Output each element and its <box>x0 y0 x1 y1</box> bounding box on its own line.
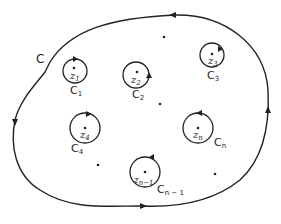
contour-label: C1 <box>70 84 82 98</box>
point-label: z2 <box>130 74 141 87</box>
contour-label: Cn <box>214 136 226 150</box>
contour-cn-minus-1: zn−1 Cn − 1 <box>130 154 184 197</box>
outer-contour-label: C <box>36 52 44 66</box>
arrow-right-icon <box>140 203 147 209</box>
point-label: z4 <box>79 129 90 142</box>
point-label: z1 <box>69 70 80 83</box>
arrow-left-icon <box>169 12 176 18</box>
arrow-up-icon <box>265 106 271 113</box>
point-dot <box>214 173 217 176</box>
contour-label: C3 <box>207 69 219 83</box>
point-label: zn <box>192 129 203 142</box>
contour-label: Cn − 1 <box>157 183 184 197</box>
contour-cn: zn Cn <box>183 110 226 150</box>
outer-contour <box>13 15 268 206</box>
contour-label: C4 <box>71 142 84 156</box>
contour-c4: z4 C4 <box>70 111 100 156</box>
diagram-svg: C z1 C1 z2 C2 z3 C3 z4 C4 zn Cn <box>0 0 281 224</box>
point-dot <box>163 36 166 39</box>
contour-diagram: C z1 C1 z2 C2 z3 C3 z4 C4 zn Cn <box>0 0 281 224</box>
point-dot <box>97 164 100 167</box>
arrow-down-icon <box>12 119 18 126</box>
point-dot <box>159 103 162 106</box>
contour-label: C2 <box>132 88 144 102</box>
point-label: zn−1 <box>133 175 154 187</box>
contour-c2: z2 C2 <box>123 62 152 102</box>
contour-c1: z1 C1 <box>63 56 87 98</box>
contour-c3: z3 C3 <box>200 43 224 83</box>
